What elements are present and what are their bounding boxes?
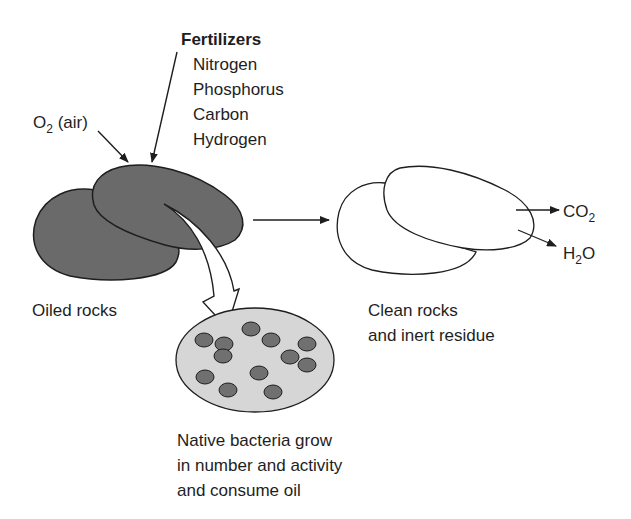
fertilizers-arrow xyxy=(152,52,177,162)
bacterium xyxy=(219,383,237,397)
h2o-label: H2O xyxy=(563,244,595,267)
fertilizer-item-phosphorus: Phosphorus xyxy=(193,80,284,99)
bacteria-label-line2: in number and activity xyxy=(177,456,343,475)
fertilizer-item-carbon: Carbon xyxy=(193,105,249,124)
bacteria-label-line3: and consume oil xyxy=(177,481,301,500)
clean-rocks-label-line2: and inert residue xyxy=(368,326,495,345)
bacterium xyxy=(281,350,299,364)
fertilizers-title: Fertilizers xyxy=(181,30,261,49)
bacterium xyxy=(298,358,316,372)
bacterium xyxy=(196,370,214,384)
oiled-rocks-label: Oiled rocks xyxy=(32,301,117,320)
bioremediation-diagram: O2 (air) Fertilizers Nitrogen Phosphorus… xyxy=(0,0,631,519)
oxygen-arrow xyxy=(98,131,128,162)
bacterium xyxy=(298,337,316,351)
oxygen-label: O2 (air) xyxy=(33,113,88,136)
bacterium xyxy=(250,366,268,380)
fertilizer-item-hydrogen: Hydrogen xyxy=(193,130,267,149)
bacterium xyxy=(195,333,213,347)
bacterium xyxy=(262,333,280,347)
bacteria-label-line1: Native bacteria grow xyxy=(177,431,333,450)
clean-rocks-shape xyxy=(337,166,534,274)
bacterium xyxy=(214,349,232,363)
bacteria-dish xyxy=(176,308,334,412)
fertilizer-item-nitrogen: Nitrogen xyxy=(193,55,257,74)
bacterium xyxy=(242,322,260,336)
bacterium xyxy=(264,385,282,399)
clean-rocks-label-line1: Clean rocks xyxy=(368,301,458,320)
co2-label: CO2 xyxy=(563,202,596,225)
